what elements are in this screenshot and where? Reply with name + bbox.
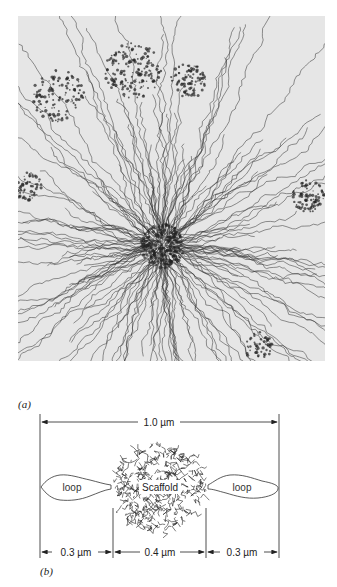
micrograph-image: [18, 16, 325, 361]
segment-center-label: 0.4 µm: [145, 547, 176, 558]
scaffold-label: Scaffold: [142, 482, 178, 493]
panel-b-label: (b): [40, 565, 53, 577]
left-loop-label: loop: [63, 482, 82, 493]
dna-loops-micrograph: [18, 16, 325, 361]
segment-right-label: 0.3 µm: [227, 547, 258, 558]
segment-left-label: 0.3 µm: [61, 547, 92, 558]
total-width-label: 1.0 µm: [144, 417, 175, 428]
scaffold-loop-diagram: 1.0 µm loop loop Scaffold 0.3 µm 0.4 µm …: [0, 400, 337, 587]
right-loop-label: loop: [233, 482, 252, 493]
